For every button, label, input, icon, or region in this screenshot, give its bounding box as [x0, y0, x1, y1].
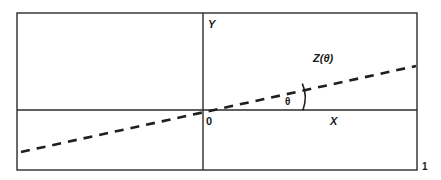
theta-symbol-label: θ [285, 97, 290, 107]
figure-number-label: 1 [422, 162, 428, 172]
y-axis-label: Y [208, 19, 215, 30]
theta-angle-arc [303, 84, 306, 110]
figure-container: Y X 0 Z(θ) θ 1 [0, 0, 441, 180]
z-theta-dashed-line [21, 66, 416, 152]
z-theta-label: Z(θ) [313, 53, 333, 64]
figure-frame [17, 13, 417, 170]
origin-label: 0 [206, 116, 212, 127]
diagram-canvas [0, 0, 441, 180]
x-axis-label: X [330, 116, 337, 127]
